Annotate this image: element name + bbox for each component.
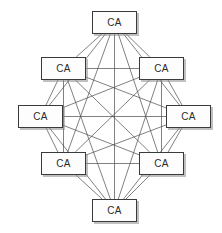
ca-node-left[interactable]: CA: [18, 105, 63, 128]
ca-node-label: CA: [181, 112, 196, 122]
node-layer: CACACACACACACACA: [0, 0, 222, 233]
ca-node-label: CA: [33, 112, 48, 122]
ca-node-label: CA: [154, 159, 169, 169]
ca-node-bottom[interactable]: CA: [92, 199, 137, 222]
ca-node-bottom-right[interactable]: CA: [139, 152, 184, 175]
ca-mesh-diagram: CACACACACACACACA: [0, 0, 222, 233]
ca-node-label: CA: [56, 64, 71, 74]
ca-node-right[interactable]: CA: [166, 105, 211, 128]
ca-node-label: CA: [107, 206, 122, 216]
ca-node-top[interactable]: CA: [92, 11, 137, 34]
ca-node-label: CA: [107, 18, 122, 28]
ca-node-top-left[interactable]: CA: [41, 57, 86, 80]
ca-node-top-right[interactable]: CA: [139, 57, 184, 80]
ca-node-bottom-left[interactable]: CA: [41, 152, 86, 175]
ca-node-label: CA: [154, 64, 169, 74]
ca-node-label: CA: [56, 159, 71, 169]
